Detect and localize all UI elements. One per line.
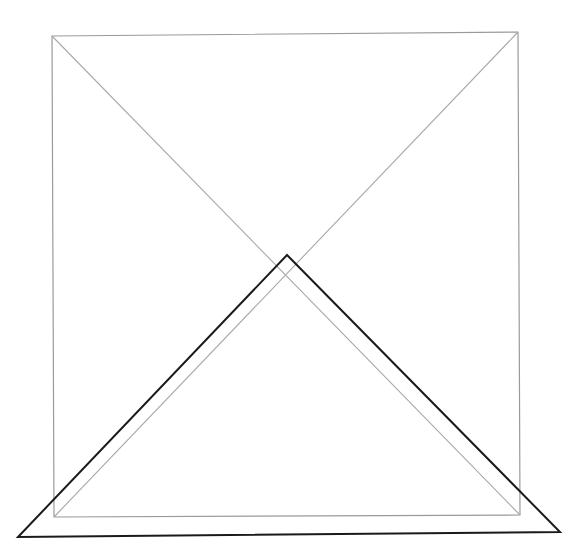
diagonal-line-2 (54, 32, 518, 517)
triangle-outline (18, 255, 560, 537)
diagonal-line-1 (52, 36, 520, 515)
sketch-canvas (0, 0, 573, 560)
